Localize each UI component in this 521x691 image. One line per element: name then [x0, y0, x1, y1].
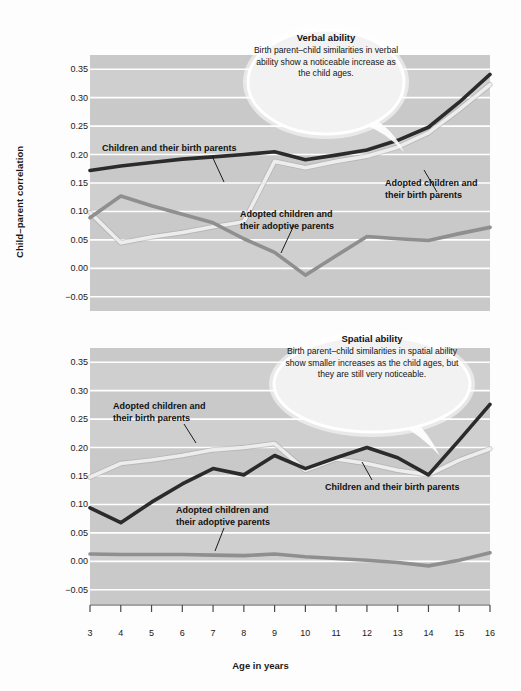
chart-figure: Child–parent correlation 0.350.300.250.2… [0, 0, 521, 691]
annotation-leader-lines [0, 0, 521, 691]
